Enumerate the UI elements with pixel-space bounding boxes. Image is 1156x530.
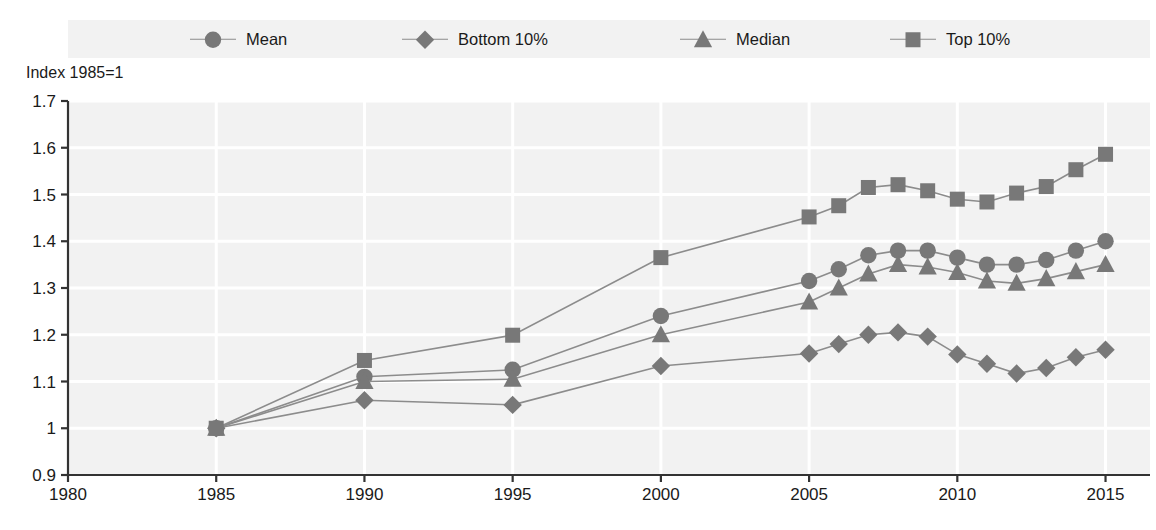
data-point-square — [1068, 162, 1083, 177]
data-point-circle — [1097, 233, 1113, 249]
data-point-circle — [979, 256, 995, 272]
data-point-circle — [1038, 252, 1054, 268]
x-axis-tick-label: 2000 — [626, 486, 696, 503]
data-point-square — [357, 353, 372, 368]
data-point-square — [979, 194, 994, 209]
x-axis-tick-label: 2010 — [922, 486, 992, 503]
data-point-square — [209, 421, 224, 436]
data-point-square — [653, 250, 668, 265]
y-axis-tick-label: 1 — [12, 420, 56, 437]
data-point-square — [802, 209, 817, 224]
data-point-circle — [1068, 242, 1084, 258]
data-point-square — [1098, 147, 1113, 162]
y-axis-tick-label: 1.4 — [12, 233, 56, 250]
data-point-square — [950, 192, 965, 207]
y-axis-tick-label: 1.3 — [12, 280, 56, 297]
data-point-square — [1009, 186, 1024, 201]
x-axis-tick-label: 2005 — [774, 486, 844, 503]
data-point-circle — [831, 261, 847, 277]
data-point-square — [831, 198, 846, 213]
data-point-square — [920, 183, 935, 198]
x-axis-tick-label: 1990 — [329, 486, 399, 503]
y-axis-tick-label: 1.1 — [12, 374, 56, 391]
data-point-square — [891, 177, 906, 192]
data-point-square — [861, 180, 876, 195]
chart-container: MeanBottom 10%MedianTop 10% Index 1985=1… — [0, 0, 1156, 530]
y-axis-tick-label: 1.6 — [12, 140, 56, 157]
y-axis-tick-label: 1.2 — [12, 327, 56, 344]
data-point-square — [505, 328, 520, 343]
data-point-circle — [653, 308, 669, 324]
plot-area — [0, 0, 1156, 530]
data-point-circle — [860, 247, 876, 263]
data-point-circle — [801, 273, 817, 289]
x-axis-tick-label: 1995 — [478, 486, 548, 503]
data-point-circle — [1008, 256, 1024, 272]
x-axis-tick-label: 1980 — [33, 486, 103, 503]
y-axis-tick-label: 1.7 — [12, 93, 56, 110]
x-axis-tick-label: 2015 — [1071, 486, 1141, 503]
data-point-circle — [919, 242, 935, 258]
data-point-square — [1039, 179, 1054, 194]
x-axis-tick-label: 1985 — [181, 486, 251, 503]
y-axis-tick-label: 0.9 — [12, 467, 56, 484]
y-axis-tick-label: 1.5 — [12, 187, 56, 204]
